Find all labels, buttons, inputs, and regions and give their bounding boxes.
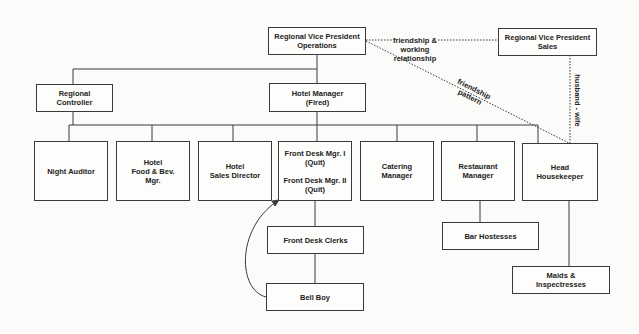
node-hotel-manager: Hotel Manager (Fired) (269, 83, 366, 112)
node-label: Housekeeper (536, 172, 583, 181)
node-label: Food & Bev. (131, 167, 174, 176)
relation-label: working (390, 45, 440, 54)
node-label: Hotel Manager (292, 89, 344, 98)
node-regional-controller: Regional Controller (36, 84, 113, 112)
node-label: Front Desk Mgr. II (284, 176, 347, 185)
node-label: Front Desk Mgr. I (285, 149, 346, 158)
node-label: (Quit) (305, 158, 325, 167)
node-label: Maids & (547, 271, 576, 280)
node-label: Inspectresses (536, 280, 586, 289)
node-label: Controller (57, 98, 93, 107)
relation-friendship-working: friendship & working relationship (390, 36, 440, 63)
node-label: Front Desk Clerks (283, 236, 347, 245)
node-maids-inspectresses: Maids & Inspectresses (512, 266, 610, 294)
node-label: Mgr. (145, 176, 160, 185)
relation-husband-wife: husband - wife (573, 71, 582, 131)
node-head-housekeeper: Head Housekeeper (522, 143, 598, 201)
node-bar-hostesses: Bar Hostesses (442, 222, 539, 250)
node-label: (Fired) (306, 98, 329, 107)
node-label: Night Auditor (47, 167, 95, 176)
node-label: Catering (382, 162, 412, 171)
node-label: Head (551, 163, 569, 172)
node-label: Regional Vice President (274, 32, 359, 41)
node-label: Bell Boy (300, 293, 330, 302)
node-front-desk-managers: Front Desk Mgr. I (Quit) Front Desk Mgr.… (278, 141, 352, 201)
node-label: Manager (463, 171, 494, 180)
relation-label: relationship (390, 54, 440, 63)
node-label: Sales (538, 42, 558, 51)
node-label: Restaurant (458, 162, 497, 171)
node-front-desk-clerks: Front Desk Clerks (267, 226, 364, 254)
node-label: Sales Director (210, 171, 260, 180)
relation-label: husband - wife (573, 74, 582, 127)
node-catering-manager: Catering Manager (360, 141, 434, 201)
node-night-auditor: Night Auditor (34, 141, 108, 201)
node-label: Regional Vice President (505, 33, 590, 42)
node-rvp-sales: Regional Vice President Sales (498, 28, 597, 56)
relation-label: friendship & (390, 36, 440, 45)
node-bell-boy: Bell Boy (266, 283, 364, 311)
node-rvp-operations: Regional Vice President Operations (268, 27, 366, 55)
node-label: Hotel (144, 158, 163, 167)
node-label: (Quit) (305, 185, 325, 194)
node-label: Manager (382, 171, 413, 180)
node-food-bev-manager: Hotel Food & Bev. Mgr. (116, 141, 190, 201)
node-label: Operations (297, 41, 337, 50)
org-chart-diagram: Regional Vice President Operations Regio… (0, 0, 639, 334)
node-label: Hotel (226, 162, 245, 171)
node-label: Bar Hostesses (464, 232, 516, 241)
node-label: Regional (59, 89, 91, 98)
node-restaurant-manager: Restaurant Manager (441, 141, 515, 201)
node-sales-director: Hotel Sales Director (198, 141, 272, 201)
